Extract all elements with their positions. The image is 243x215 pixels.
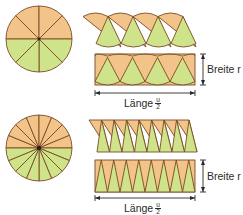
fraction-denominator: 2 (156, 209, 160, 215)
length-label-text: Länge (124, 97, 153, 109)
arrow-head-right (190, 91, 195, 95)
fraction-u-over-2: u2 (155, 97, 161, 110)
circle-area-diagram (0, 0, 243, 215)
width-label-1: Breite r (207, 64, 241, 75)
arrow-head-left (95, 91, 100, 95)
length-label-text: Länge (124, 202, 153, 214)
arrow-head-left (95, 196, 100, 200)
length-label-1: Längeu2 (124, 98, 161, 111)
arrow-head-up (201, 160, 205, 165)
arrow-head-down (201, 187, 205, 192)
arrow-head-right (190, 196, 195, 200)
fraction-denominator: 2 (156, 104, 160, 110)
length-label-2: Längeu2 (124, 203, 161, 215)
width-label-2: Breite r (207, 171, 241, 182)
center-point (38, 38, 41, 41)
center-point (37, 146, 41, 150)
arrow-head-up (201, 54, 205, 59)
arrow-head-down (201, 80, 205, 85)
fraction-u-over-2: u2 (155, 202, 161, 215)
